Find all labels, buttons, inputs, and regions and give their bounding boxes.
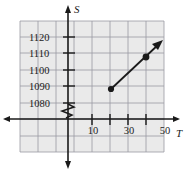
y-tick-label-1120: 1120	[29, 32, 50, 43]
x-axis-right-arrowhead	[173, 116, 180, 122]
coordinate-graph-svg: 1120 1110 1100 1090 1080 10 30 50 S T	[0, 0, 189, 171]
graph-figure: 1120 1110 1100 1090 1080 10 30 50 S T	[0, 0, 189, 171]
x-axis-left-arrowhead	[3, 116, 10, 122]
x-tick-label-10: 10	[88, 125, 99, 136]
data-point-marker	[143, 54, 150, 61]
y-axis-name-label: S	[74, 3, 80, 15]
y-tick-label-1110: 1110	[29, 48, 49, 59]
y-tick-label-1090: 1090	[29, 81, 50, 92]
x-tick-label-50: 50	[160, 125, 171, 136]
x-tick-label-30: 30	[124, 125, 135, 136]
y-axis-bottom-arrowhead	[65, 161, 71, 169]
x-axis-name-label: T	[176, 127, 183, 139]
y-axis-top-arrowhead	[65, 5, 71, 13]
y-tick-label-1100: 1100	[29, 65, 50, 76]
data-point-marker	[108, 86, 114, 92]
y-tick-label-1080: 1080	[29, 98, 50, 109]
